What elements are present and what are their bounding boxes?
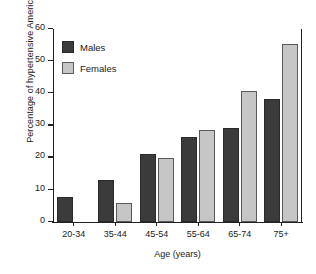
bar-group: 75+ <box>261 29 303 222</box>
bar-group: 65-74 <box>219 29 261 222</box>
y-axis-tick-label: 50 <box>35 54 45 64</box>
bar-male <box>57 197 73 222</box>
legend-label: Males <box>80 42 105 53</box>
x-axis-tick <box>239 222 240 226</box>
x-axis-title: Age (years) <box>53 249 302 259</box>
bar-male <box>264 99 280 222</box>
x-axis-tick-label: 20-34 <box>52 229 96 239</box>
x-axis-tick-label: 35-44 <box>93 229 137 239</box>
x-axis-tick <box>115 222 116 226</box>
bar-female <box>158 158 174 222</box>
bar-group: 55-64 <box>178 29 220 222</box>
legend: MalesFemales <box>62 41 116 83</box>
x-axis-tick <box>281 222 282 226</box>
x-axis-tick-label: 55-64 <box>176 229 220 239</box>
y-axis-tick-label: 60 <box>35 22 45 32</box>
legend-label: Females <box>80 63 116 74</box>
bar-female <box>116 203 132 222</box>
bar-male <box>181 137 197 222</box>
bar-male <box>140 154 156 222</box>
y-axis-tick-label: 30 <box>35 118 45 128</box>
bar-female <box>199 130 215 222</box>
x-axis-tick <box>156 222 157 226</box>
bar-male <box>223 128 239 222</box>
bar-female <box>282 44 298 222</box>
x-axis-tick <box>73 222 74 226</box>
legend-item-female: Females <box>62 62 116 74</box>
y-axis-tick-label: 20 <box>35 150 45 160</box>
chart-figure: Percentage of hypertensive Americans 010… <box>0 0 316 274</box>
y-axis-tick-label: 0 <box>40 215 45 225</box>
y-axis-tick-label: 10 <box>35 183 45 193</box>
bar-female <box>241 91 257 222</box>
bar-group: 45-54 <box>136 29 178 222</box>
legend-swatch-male <box>62 41 74 53</box>
x-axis-tick-label: 75+ <box>259 229 303 239</box>
x-axis-tick <box>198 222 199 226</box>
legend-swatch-female <box>62 62 74 74</box>
y-axis-title: Percentage of hypertensive Americans <box>25 0 35 174</box>
bar-male <box>98 180 114 222</box>
x-axis-tick-label: 65-74 <box>218 229 262 239</box>
x-axis-line <box>52 222 303 224</box>
y-axis-tick-label: 40 <box>35 86 45 96</box>
legend-item-male: Males <box>62 41 116 53</box>
x-axis-tick-label: 45-54 <box>135 229 179 239</box>
